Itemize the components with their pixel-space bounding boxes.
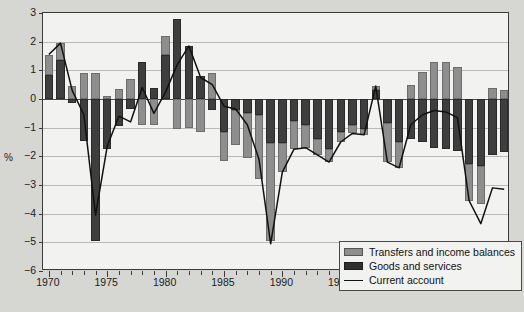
y-tick-mark [39,185,43,186]
bar-segment [383,99,391,123]
bar-segment [91,99,99,241]
x-tick-minor [131,271,132,275]
x-tick-minor [271,271,272,275]
bar-segment [360,99,368,129]
bar-segment [301,125,309,148]
bar-segment [500,99,508,152]
bar-segment [395,99,403,142]
y-tick-label: −2 [0,149,36,161]
x-tick-minor [61,271,62,275]
gridline [43,156,508,157]
bar-segment [45,55,53,75]
x-tick-major [166,271,167,277]
bar-segment [407,99,415,139]
x-tick-minor [294,271,295,275]
bar-segment [278,143,286,172]
legend-swatch-goods-icon [344,262,363,270]
bar-segment [465,99,473,164]
y-tick-label: −5 [0,235,36,247]
bar-segment [313,99,321,139]
legend-item-current-account: Current account [344,273,515,287]
y-tick-label: −1 [0,121,36,133]
bar-segment [220,99,228,132]
bar-segment [337,132,345,142]
bar-segment [488,88,496,99]
chart-screenshot: % 3210−1−2−3−4−5−6 197019751980198519901… [0,0,524,312]
x-tick-major [49,271,50,277]
bar-segment [68,99,76,103]
current-account-line [43,13,510,271]
bar-segment [103,96,111,99]
x-tick-label: 1985 [211,276,234,288]
bar-segment [442,62,450,99]
bar-segment [325,149,333,162]
bar-segment [348,125,356,134]
x-tick-minor [317,271,318,275]
x-tick-label: 1970 [36,276,59,288]
legend-label-goods: Goods and services [369,260,462,273]
bar-segment [115,99,123,126]
y-tick-label: 0 [0,92,36,104]
bar-segment [488,99,496,155]
y-tick-label: −6 [0,264,36,276]
legend-label-current-account: Current account [369,274,444,287]
bar-segment [290,99,298,121]
y-tick-label: 1 [0,63,36,75]
bar-segment [45,75,53,99]
bar-segment [430,62,438,99]
x-tick-minor [96,271,97,275]
bar-segment [418,72,426,99]
y-tick-mark [39,214,43,215]
legend: Transfers and income balances Goods and … [339,241,522,291]
x-tick-minor [247,271,248,275]
bar-segment [290,121,298,150]
x-tick-minor [119,271,120,275]
bar-segment [231,99,239,110]
x-tick-minor [212,271,213,275]
gridline [43,185,508,186]
bar-segment [56,60,64,99]
bar-segment [442,99,450,149]
bar-segment [126,99,134,109]
bar-segment [243,99,251,113]
x-tick-minor [259,271,260,275]
bar-segment [173,99,181,129]
bar-segment [161,55,169,99]
y-tick-mark [39,70,43,71]
bar-segment [255,115,263,180]
y-tick-mark [39,242,43,243]
x-tick-minor [177,271,178,275]
x-tick-major [282,271,283,277]
x-tick-minor [154,271,155,275]
plot-area: Transfers and income balances Goods and … [42,12,509,270]
y-tick-label: 3 [0,6,36,18]
x-tick-minor [72,271,73,275]
bar-segment [313,139,321,155]
y-tick-mark [39,13,43,14]
bar-segment [126,79,134,99]
bar-segment [278,99,286,143]
bar-segment [150,99,158,125]
legend-swatch-line-icon [344,280,363,281]
x-tick-minor [142,271,143,275]
bar-segment [407,85,415,99]
x-tick-label: 1975 [95,276,118,288]
bar-segment [68,86,76,99]
bar-segment [91,73,99,99]
x-tick-minor [329,271,330,275]
bar-segment [360,129,368,135]
bar-segment [477,166,485,203]
bar-segment [418,99,426,142]
bar-segment [453,67,461,99]
bar-segment [372,90,380,99]
bar-segment [430,99,438,148]
bar-segment [255,99,263,115]
bar-segment [231,110,239,144]
x-tick-minor [236,271,237,275]
x-tick-minor [189,271,190,275]
y-tick-mark [39,42,43,43]
x-tick-major [107,271,108,277]
x-tick-label: 1980 [153,276,176,288]
bar-segment [348,99,356,125]
bar-segment [138,62,146,99]
